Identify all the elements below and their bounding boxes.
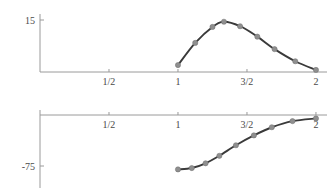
y-tick-label--75: -75 [22,161,35,172]
data-point [175,62,180,67]
x-tick-label-2: 2 [313,119,318,130]
data-point [233,143,238,148]
chart-panel-bottom: 1/213/22 -75 [0,96,329,193]
figure-container: 1/213/22 15 1/213/22 -75 [0,0,329,193]
data-point [203,161,208,166]
x-tick-label-group-bottom: 1/213/22 [103,119,319,130]
data-point [269,125,274,130]
y-tick-label-group-bottom: -75 [22,161,35,172]
x-tick-label-1: 1 [175,119,180,130]
x-tick-label-1/2: 1/2 [103,119,116,130]
data-point [251,133,256,138]
x-tick-label-group-top: 1/213/22 [103,76,319,87]
data-point [175,167,180,172]
data-point-group-top [175,19,318,72]
bottom-chart-svg: 1/213/22 -75 [0,96,329,193]
data-point [217,153,222,158]
x-tick-label-3/2: 3/2 [241,119,254,130]
x-tick-label-3/2: 3/2 [241,76,254,87]
data-point [290,119,295,124]
y-tick-label-15: 15 [25,15,35,26]
data-point [293,59,298,64]
x-tick-label-1/2: 1/2 [103,76,116,87]
x-tick-label-2: 2 [313,76,318,87]
chart-panel-top: 1/213/22 15 [0,0,329,96]
data-point [210,24,215,29]
x-tick-label-1: 1 [175,76,180,87]
data-point [193,40,198,45]
data-point [272,47,277,52]
data-point [255,34,260,39]
top-chart-svg: 1/213/22 15 [0,0,329,96]
data-point [313,67,318,72]
y-tick-label-group-top: 15 [25,15,35,26]
data-point [237,24,242,29]
data-point [221,19,226,24]
data-point [189,165,194,170]
